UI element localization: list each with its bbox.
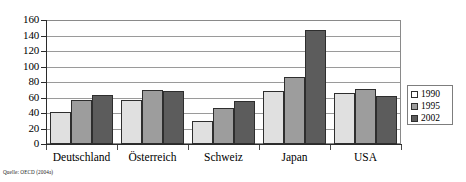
y-axis-tick-label: 120 (0, 45, 39, 56)
y-axis-tick-label: 60 (0, 92, 39, 103)
gridline (47, 36, 400, 37)
legend-swatch-icon (411, 115, 418, 122)
y-axis-tick-mark (41, 82, 46, 83)
bar (284, 77, 305, 144)
y-axis-tick-mark (41, 20, 46, 21)
y-axis-tick-mark (41, 144, 46, 145)
bar (263, 91, 284, 144)
y-axis-tick-label: 100 (0, 61, 39, 72)
legend-label: 1990 (421, 89, 440, 99)
y-axis-tick-mark (41, 36, 46, 37)
bar (142, 90, 163, 144)
bar (92, 95, 113, 144)
bar (50, 112, 71, 144)
bar (334, 93, 355, 144)
y-axis-tick-label: 20 (0, 123, 39, 134)
source-note: Quelle: OECD (2004a) (3, 169, 53, 175)
x-axis-tick-mark (401, 145, 402, 150)
y-axis-tick-mark (41, 129, 46, 130)
gridline (47, 82, 400, 83)
legend-swatch-icon (411, 103, 418, 110)
bar (192, 121, 213, 144)
bar (234, 101, 255, 144)
legend-swatch-icon (411, 91, 418, 98)
bar (121, 100, 142, 144)
y-axis-tick-label: 0 (0, 138, 39, 149)
bar (71, 100, 92, 144)
x-axis-tick-mark (259, 145, 260, 150)
x-axis-category-label: Schweiz (188, 151, 259, 164)
legend-entry: 1990 (411, 88, 452, 100)
legend-entry: 1995 (411, 100, 452, 112)
legend-label: 1995 (421, 101, 440, 111)
y-axis-line (46, 20, 47, 145)
bar (376, 96, 397, 144)
gridline (47, 51, 400, 52)
legend-entry: 2002 (411, 112, 452, 124)
y-axis-tick-mark (41, 113, 46, 114)
y-axis-tick-mark (41, 51, 46, 52)
x-axis-category-label: USA (330, 151, 401, 164)
chart-legend: 199019952002 (407, 85, 453, 125)
bar (213, 108, 234, 144)
bar (355, 89, 376, 144)
x-axis-line (46, 144, 402, 145)
y-axis-tick-label: 140 (0, 30, 39, 41)
y-axis-tick-label: 80 (0, 76, 39, 87)
y-axis-tick-labels: 020406080100120140160 (0, 0, 39, 182)
x-axis-tick-mark (330, 145, 331, 150)
x-axis-category-label: Deutschland (46, 151, 117, 164)
y-axis-tick-mark (41, 98, 46, 99)
legend-label: 2002 (421, 113, 440, 123)
bar-chart-figure: 020406080100120140160 DeutschlandÖsterre… (0, 0, 466, 182)
x-axis-tick-mark (188, 145, 189, 150)
y-axis-tick-label: 40 (0, 107, 39, 118)
gridline (47, 67, 400, 68)
bar (163, 91, 184, 144)
x-axis-tick-mark (46, 145, 47, 150)
x-axis-tick-mark (117, 145, 118, 150)
y-axis-tick-label: 160 (0, 14, 39, 25)
x-axis-category-label: Japan (259, 151, 330, 164)
x-axis-category-label: Österreich (117, 151, 188, 164)
y-axis-tick-mark (41, 67, 46, 68)
bar (305, 30, 326, 144)
